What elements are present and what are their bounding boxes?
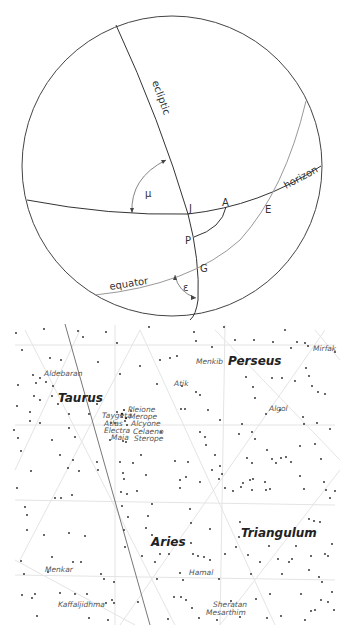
star-map: Taurus Perseus Aries Triangulum Aldebara…	[13, 324, 340, 625]
point-G-label: G	[200, 263, 208, 274]
point-J-label: J	[188, 203, 192, 214]
star-label-maia: Maia	[111, 433, 129, 442]
sphere-outline	[22, 16, 322, 316]
mu-arrow-tail-icon	[130, 208, 134, 213]
star-label-atik: Atik	[173, 379, 189, 388]
mu-angle-arc	[132, 160, 166, 213]
star-label-menkar: Menkar	[45, 565, 74, 574]
star-label-hamal: Hamal	[189, 568, 214, 577]
point-P-label: P	[185, 235, 191, 246]
horizon-label: horizon	[282, 164, 320, 191]
constellation-aries: Aries	[150, 535, 186, 549]
star-label-mesarthim: Mesarthim	[206, 608, 246, 617]
point-A-label: A	[222, 197, 229, 208]
point-E-label: E	[265, 204, 271, 215]
arc-A-P	[194, 207, 226, 237]
equator-label: equator	[109, 275, 150, 292]
figure-canvas: ecliptic horizon equator μ ε J A E P G	[0, 0, 348, 634]
epsilon-label: ε	[183, 282, 188, 293]
star-label-mirfak: Mirfak	[313, 344, 337, 353]
star-label-sterope: Sterope	[134, 434, 164, 443]
mu-label: μ	[145, 188, 152, 199]
horizon-line	[27, 166, 321, 214]
constellation-triangulum: Triangulum	[241, 526, 317, 540]
star-label-aldebaran: Aldebaran	[43, 369, 83, 378]
star-label-kaffaljidhma: Kaffaljidhma	[58, 600, 105, 609]
ecliptic-line	[116, 25, 198, 320]
star-label-algol: Algol	[268, 404, 289, 413]
celestial-sphere-diagram: ecliptic horizon equator μ ε J A E P G	[22, 16, 322, 320]
constellation-perseus: Perseus	[228, 354, 282, 368]
ecliptic-label: ecliptic	[150, 79, 173, 116]
constellation-taurus: Taurus	[58, 391, 103, 405]
star-label-menkib: Menkib	[196, 357, 223, 366]
